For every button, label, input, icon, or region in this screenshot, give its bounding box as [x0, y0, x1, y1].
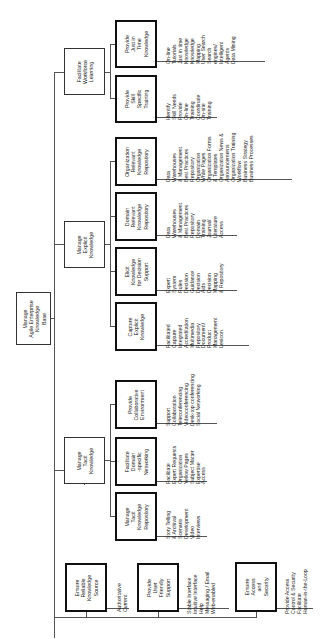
node-label: Domain Relevant Knowledge Repository	[124, 203, 149, 229]
connector-l1-mek	[54, 244, 64, 245]
node-capture-explicit-knowledge: Capture Explicit Knowledge	[115, 302, 157, 351]
connector-pufs	[158, 612, 159, 617]
node-label: Ensure Reliable Knowledge Source	[74, 574, 99, 600]
node-facilitate-workforce-learning: Facilitate Workforce Learning	[64, 48, 105, 95]
node-label: Ensure Access and Security	[244, 577, 269, 596]
node-label: Manage Explicit Knowledge	[75, 231, 94, 257]
node-ensure-reliable-knowledge-source: Ensure Reliable Knowledge Source	[65, 563, 107, 612]
node-label: Provide Skill Specific Training	[124, 90, 149, 109]
leaves-user-support: Stable Interface Intuitive Interface Hel…	[187, 572, 217, 614]
leaves-collaborative: Support Collaboration Teleconferencing V…	[166, 374, 201, 426]
node-organization-relevant-knowledge-repository: Organization Relevant Knowledge Reposito…	[115, 137, 157, 186]
node-manage-explicit-knowledge: Manage Explicit Knowledge	[64, 221, 105, 268]
node-label: Capture Explicit Knowledge	[127, 313, 146, 339]
connector-spine	[54, 72, 55, 638]
node-label: Elicit Knowledge for Decision Support	[124, 258, 149, 286]
node-domain-relevant-knowledge-repository: Domain Relevant Knowledge Repository	[115, 192, 157, 241]
connector-l1-fwl	[54, 72, 64, 73]
node-manage-tacit-knowledge-repository: Manage Tacit Knowledge Repository	[115, 492, 157, 541]
leaves-reliable-source: Authoritative Current	[117, 583, 129, 612]
node-label: Provide User Friendly Support	[146, 578, 171, 597]
leaves-capture-explicit: Facilitated Capture Integrated Accredita…	[166, 318, 225, 348]
node-provide-just-in-time-knowledge: Provide Just in Time Knowledge	[115, 20, 157, 68]
leaves-just-in-time: On-line Tutorials Just in time Knowledge…	[166, 35, 237, 64]
connector-mek-v	[110, 161, 111, 327]
connector-eas	[256, 612, 257, 617]
connector-fwl-v	[110, 44, 111, 99]
connector-erks	[86, 612, 87, 617]
node-label: Provide Collaborative Environment	[127, 389, 146, 420]
node-ensure-access-and-security: Ensure Access and Security	[235, 562, 277, 612]
node-label: Organization Relevant Knowledge Reposito…	[124, 146, 149, 176]
root-node-label: Manage Agile Enterprise Knowledge Base	[21, 300, 46, 337]
node-label: Facilitate Workforce Learning	[75, 59, 94, 83]
node-elicit-knowledge-for-decision-support: Elicit Knowledge for Decision Support	[115, 247, 157, 296]
node-label: Manage Tacit Knowledge Repository	[124, 503, 149, 529]
leaves-networking: Facilitate Expert Requests Organization …	[166, 446, 207, 484]
leaves-access-security: Provide Access Control & Security Facili…	[285, 569, 309, 614]
connector-bottom-bus	[54, 617, 257, 618]
root-node: Manage Agile Enterprise Knowledge Base	[16, 292, 51, 345]
leaves-skill-training: Identify Skill Needs Provide On-line Tra…	[166, 94, 213, 120]
leaves-decision-support: Expert System Rules Decision Guidance De…	[166, 263, 225, 293]
node-label: Manage Tacit Knowledge	[75, 447, 94, 473]
node-label: Facilitate Domain -specific Networking	[124, 448, 149, 475]
leaves-tacit-repository: Story Telling & Archival Scenario Develo…	[166, 508, 201, 539]
node-provide-collaborative-environment: Provide Collaborative Environment	[115, 380, 157, 429]
node-provide-user-friendly-support: Provide User Friendly Support	[137, 563, 179, 612]
node-facilitate-domain-specific-networking: Facilitate Domain -specific Networking	[115, 437, 157, 486]
node-provide-skill-specific-training: Provide Skill Specific Training	[115, 75, 157, 123]
leaves-domain-repository: Data Warehouses & Management Best Practi…	[166, 203, 225, 238]
diagram-canvas: Manage Agile Enterprise Knowledge Base F…	[0, 0, 333, 639]
node-label: Provide Just in Time Knowledge	[124, 31, 149, 57]
leaves-org-repository: Data Warehouses & Management Best Practi…	[166, 133, 255, 182]
connector-l1-mtk-v	[84, 484, 85, 485]
node-manage-tacit-knowledge: Manage Tacit Knowledge	[64, 437, 105, 484]
